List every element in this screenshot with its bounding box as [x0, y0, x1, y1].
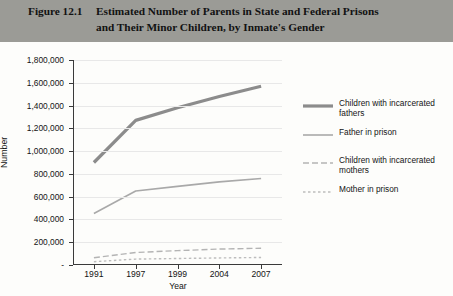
legend-label: Father in prison	[339, 127, 451, 137]
y-axis-tick-label: 200,000	[34, 237, 64, 247]
y-axis-tick	[69, 60, 73, 61]
gridline	[73, 83, 282, 84]
gridline	[73, 151, 282, 152]
y-axis-tick-label: 1,200,000	[27, 123, 64, 133]
legend-label: Mother in prison	[339, 184, 451, 194]
gridline	[73, 60, 282, 61]
y-axis-tick-label: 1,600,000	[27, 78, 64, 88]
x-axis-tick-label: 1999	[168, 269, 187, 279]
y-axis-tick	[69, 197, 73, 198]
y-axis-tick	[69, 151, 73, 152]
figure-container: Figure 12.1Estimated Number of Parents i…	[0, 0, 453, 296]
gridline	[73, 219, 282, 220]
y-axis-tick	[69, 265, 73, 266]
legend-swatch-icon	[303, 158, 333, 168]
x-axis-tick-label: 2004	[210, 269, 229, 279]
figure-header-banner: Figure 12.1Estimated Number of Parents i…	[0, 0, 453, 42]
y-axis-tick	[69, 128, 73, 129]
legend-swatch-icon	[303, 187, 333, 197]
legend-swatch-icon	[303, 101, 333, 111]
y-axis-tick	[69, 242, 73, 243]
gridline	[73, 174, 282, 175]
x-axis-tick-label: 1991	[84, 269, 103, 279]
y-axis-tick-labels: -200,000400,000600,000800,0001,000,0001,…	[0, 60, 70, 265]
plot-area	[73, 60, 282, 265]
y-axis-tick-label: 600,000	[34, 192, 64, 202]
gridline	[73, 197, 282, 198]
y-axis-tick-label: 400,000	[34, 214, 64, 224]
y-axis-tick	[69, 174, 73, 175]
gridline	[73, 242, 282, 243]
x-axis-tick-label: 1997	[126, 269, 145, 279]
figure-header-text: Figure 12.1Estimated Number of Parents i…	[28, 4, 447, 35]
gridlines	[73, 60, 282, 265]
x-axis-tick-label: 2007	[252, 269, 271, 279]
y-axis-tick	[69, 219, 73, 220]
legend-swatch-icon	[303, 130, 333, 140]
figure-label: Figure 12.1	[28, 4, 96, 20]
figure-title: Estimated Number of Parents in State and…	[96, 4, 396, 35]
legend-label: Children with incarcerated mothers	[339, 155, 451, 175]
legend-label: Children with incarcerated fathers	[339, 98, 451, 118]
gridline	[73, 128, 282, 129]
y-axis-tick	[69, 106, 73, 107]
y-axis-tick-label: 800,000	[34, 169, 64, 179]
y-axis-tick-label: -	[61, 260, 64, 270]
y-axis-tick	[69, 83, 73, 84]
y-axis-tick-label: 1,400,000	[27, 101, 64, 111]
y-axis-title: Number	[0, 137, 9, 168]
x-axis-title: Year	[169, 281, 186, 291]
y-axis-tick-label: 1,800,000	[27, 55, 64, 65]
gridline	[73, 106, 282, 107]
y-axis-tick-label: 1,000,000	[27, 146, 64, 156]
y-axis-line	[73, 60, 74, 265]
